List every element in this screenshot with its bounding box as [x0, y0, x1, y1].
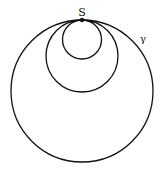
tangent-circles-diagram: S γ — [0, 0, 161, 173]
curve-label-gamma: γ — [140, 33, 146, 44]
small-circle — [63, 20, 102, 59]
large-circle — [11, 20, 153, 162]
point-label-s: S — [78, 6, 86, 19]
medium-circle — [46, 20, 118, 92]
